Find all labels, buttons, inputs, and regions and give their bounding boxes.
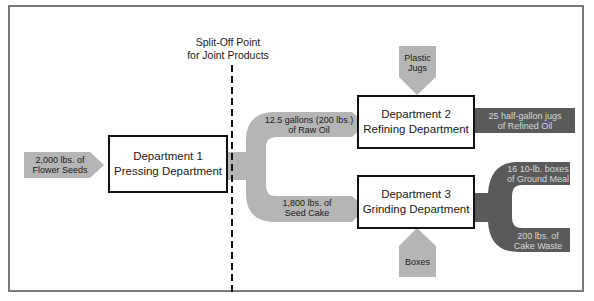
raw-oil-line2: of Raw Oil: [254, 125, 364, 135]
cake-waste-label: 200 lbs. of Cake Waste: [505, 231, 571, 251]
boxes-line1: Boxes: [399, 257, 436, 267]
department-2-box: Department 2 Refining Department: [357, 95, 475, 149]
department-1-number: Department 1: [133, 149, 203, 164]
cake-waste-line1: 200 lbs. of: [505, 231, 571, 241]
ground-meal-line2: of Ground Meal: [500, 174, 576, 184]
ground-meal-line1: 16 10-lb. boxes: [500, 164, 576, 174]
seed-cake-label: 1,800 lbs. of Seed Cake: [262, 198, 352, 218]
department-3-name: Grinding Department: [363, 202, 470, 217]
department-3-box: Department 3 Grinding Department: [357, 175, 475, 229]
seed-cake-line2: Seed Cake: [262, 208, 352, 218]
refined-oil-line2: of Refined Oil: [475, 121, 575, 131]
boxes-label: Boxes: [399, 257, 436, 267]
raw-oil-label: 12.5 gallons (200 lbs.) of Raw Oil: [254, 115, 364, 135]
boxes-arrow: [399, 228, 436, 277]
cake-waste-line2: Cake Waste: [505, 241, 571, 251]
flower-seeds-line2: Flower Seeds: [24, 165, 96, 175]
department-2-name: Refining Department: [363, 122, 468, 137]
flower-seeds-line1: 2,000 lbs. of: [24, 155, 96, 165]
refined-oil-line1: 25 half-gallon jugs: [475, 111, 575, 121]
ground-meal-label: 16 10-lb. boxes of Ground Meal: [500, 164, 576, 184]
department-1-name: Pressing Department: [114, 164, 222, 179]
raw-oil-line1: 12.5 gallons (200 lbs.): [254, 115, 364, 125]
split-off-line2: for Joint Products: [173, 49, 283, 62]
split-off-label: Split-Off Point for Joint Products: [173, 36, 283, 62]
refined-oil-label: 25 half-gallon jugs of Refined Oil: [475, 111, 575, 131]
split-off-line1: Split-Off Point: [173, 36, 283, 49]
department-2-number: Department 2: [381, 107, 451, 122]
flower-seeds-label: 2,000 lbs. of Flower Seeds: [24, 155, 96, 175]
seed-cake-line1: 1,800 lbs. of: [262, 198, 352, 208]
department-1-box: Department 1 Pressing Department: [108, 135, 228, 193]
plastic-jugs-label: Plastic Jugs: [399, 53, 436, 73]
plastic-jugs-line2: Jugs: [399, 63, 436, 73]
department-3-number: Department 3: [381, 187, 451, 202]
plastic-jugs-line1: Plastic: [399, 53, 436, 63]
flow-arrows: [0, 0, 594, 301]
